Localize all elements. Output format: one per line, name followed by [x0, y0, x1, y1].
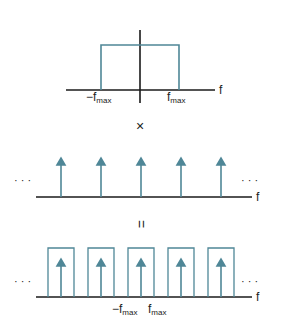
- label-fmax: fmax: [167, 90, 185, 105]
- multiply-operator: ×: [136, 118, 144, 134]
- panel-impulse-train: · · · · · · f: [14, 158, 260, 204]
- ellipsis-right: · · ·: [241, 174, 258, 186]
- arrow-icon: [177, 158, 185, 165]
- axis-label-f: f: [256, 290, 260, 304]
- arrow-icon: [97, 158, 105, 165]
- arrow-icon: [137, 158, 145, 165]
- ellipsis-right: · · ·: [241, 275, 258, 287]
- arrow-icon: [57, 259, 65, 266]
- equals-operator: =: [133, 220, 149, 228]
- arrow-icon: [217, 259, 225, 266]
- sampling-spectrum-diagram: f −fmax fmax × · · · · · · f =: [0, 0, 281, 330]
- label-neg-fmax: −fmax: [112, 302, 137, 317]
- axis-label-f: f: [219, 83, 223, 97]
- arrow-icon: [177, 259, 185, 266]
- axis-label-f: f: [256, 190, 260, 204]
- label-fmax: fmax: [148, 302, 166, 317]
- impulses: [57, 259, 225, 297]
- arrow-icon: [57, 158, 65, 165]
- arrow-icon: [217, 158, 225, 165]
- arrow-icon: [137, 259, 145, 266]
- ellipsis-left: · · ·: [14, 275, 31, 287]
- panel-baseband-spectrum: f −fmax fmax: [66, 30, 223, 105]
- impulses: [57, 158, 225, 197]
- arrow-icon: [97, 259, 105, 266]
- ellipsis-left: · · ·: [14, 174, 31, 186]
- panel-replicated-spectrum: · · · · · · f −fmax fmax: [14, 248, 260, 317]
- label-neg-fmax: −fmax: [86, 90, 111, 105]
